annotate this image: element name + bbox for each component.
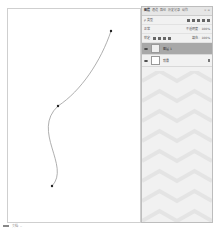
document-info: 文档: -- (12, 224, 22, 228)
filter-type-icon[interactable] (197, 19, 200, 22)
filter-row: ρ 类型 (142, 16, 212, 25)
fill-input[interactable]: 100% (201, 36, 210, 40)
lock-position-icon[interactable] (163, 37, 166, 40)
anchor-point-top[interactable] (110, 30, 112, 32)
layer-thumbnail (151, 56, 160, 65)
filter-smart-icon[interactable] (207, 19, 210, 22)
tab-actions[interactable]: 动作 (182, 8, 188, 14)
zoom-level[interactable] (3, 225, 9, 227)
layer-row[interactable]: 背景 (142, 55, 212, 67)
lock-image-icon[interactable] (158, 37, 161, 40)
lock-icon (208, 59, 210, 62)
tab-layers[interactable]: 图层 (144, 8, 150, 14)
panel-empty-area (142, 71, 212, 223)
panel-tabs: 图层 通道 路径 历史记录 动作 × ≡ (142, 7, 212, 16)
lock-transparent-icon[interactable] (153, 37, 156, 40)
panel-menu-icon[interactable]: × ≡ (204, 8, 210, 14)
layer-name[interactable]: 背景 (163, 59, 169, 63)
lock-row: 锁定: 填充: 100% (142, 34, 212, 43)
opacity-label: 不透明度: (186, 27, 199, 31)
document-canvas[interactable] (7, 8, 141, 223)
blend-row: 正常 不透明度: 100% (142, 25, 212, 34)
tab-channels[interactable]: 通道 (152, 8, 158, 14)
tab-paths[interactable]: 路径 (160, 8, 166, 14)
tab-history[interactable]: 历史记录 (168, 8, 180, 14)
filter-kind-select[interactable]: ρ 类型 (144, 18, 153, 22)
layer-thumbnail (151, 44, 160, 53)
layer-name[interactable]: 图层 1 (163, 47, 172, 51)
visibility-eye-icon[interactable] (144, 60, 148, 62)
visibility-eye-icon[interactable] (144, 48, 148, 50)
anchor-point-bottom[interactable] (51, 185, 53, 187)
filter-shape-icon[interactable] (202, 19, 205, 22)
filter-adjustment-icon[interactable] (192, 19, 195, 22)
status-bar: 文档: -- (3, 224, 22, 228)
anchor-point-middle[interactable] (57, 105, 59, 107)
fill-label: 填充: (192, 36, 199, 40)
blend-mode-select[interactable]: 正常 (144, 27, 150, 31)
layers-panel: 图层 通道 路径 历史记录 动作 × ≡ ρ 类型 正常 不透明度: 100% … (141, 6, 213, 223)
opacity-input[interactable]: 100% (201, 27, 210, 31)
layer-row[interactable]: 图层 1 (142, 43, 212, 55)
lock-label: 锁定: (144, 36, 151, 40)
filter-pixel-icon[interactable] (187, 19, 190, 22)
lock-all-icon[interactable] (168, 37, 171, 40)
